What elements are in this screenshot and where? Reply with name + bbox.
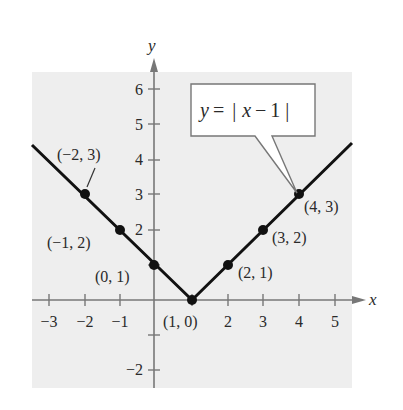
y-tick-label: 3 [135, 186, 143, 203]
x-axis-label: x [368, 290, 377, 309]
point-1-0 [187, 295, 197, 305]
point-label: (−1, 2) [47, 234, 91, 252]
x-tick-label: 3 [259, 313, 267, 330]
y-tick-label: 4 [135, 151, 143, 168]
point-label: (2, 1) [238, 264, 273, 282]
point-label: (4, 3) [304, 198, 339, 216]
y-axis-arrow-icon [150, 58, 158, 72]
point-3-2 [258, 225, 268, 235]
x-tick-label: 4 [295, 313, 303, 330]
x-tick-label: 5 [331, 313, 339, 330]
point-neg2-3 [80, 189, 90, 199]
y-tick-label: 5 [135, 116, 143, 133]
x-tick-label: 2 [224, 313, 232, 330]
x-axis-arrow-icon [352, 296, 366, 304]
x-tick-label: −1 [111, 313, 128, 330]
y-axis-label: y [146, 36, 156, 55]
absolute-value-graph: x y −3 −2 −1 2 3 4 5 −2 2 3 [0, 0, 403, 410]
point-label: (0, 1) [95, 268, 130, 286]
point-label: (−2, 3) [57, 146, 101, 164]
y-tick-label: 6 [135, 81, 143, 98]
y-tick-label: −2 [126, 361, 143, 378]
point-2-1 [223, 260, 233, 270]
x-tick-label: −3 [40, 313, 57, 330]
point-label: (1, 0) [163, 313, 198, 331]
point-label: (3, 2) [272, 229, 307, 247]
point-neg1-2 [115, 225, 125, 235]
point-0-1 [149, 260, 159, 270]
x-tick-label: −2 [76, 313, 93, 330]
y-tick-label: 2 [135, 221, 143, 238]
